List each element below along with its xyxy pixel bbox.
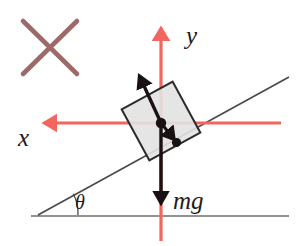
physics-diagram-canvas: y x mg θ	[0, 0, 306, 246]
contact-point-dot	[172, 138, 181, 147]
y-axis-label: y	[183, 22, 198, 49]
angle-label: θ	[75, 191, 85, 213]
x-axis-label: x	[17, 124, 29, 151]
weight-label: mg	[173, 187, 204, 214]
center-of-mass-dot	[156, 118, 166, 128]
inclined-plane-free-body-diagram: y x mg θ	[0, 0, 306, 246]
cross-mark-icon	[23, 21, 77, 74]
